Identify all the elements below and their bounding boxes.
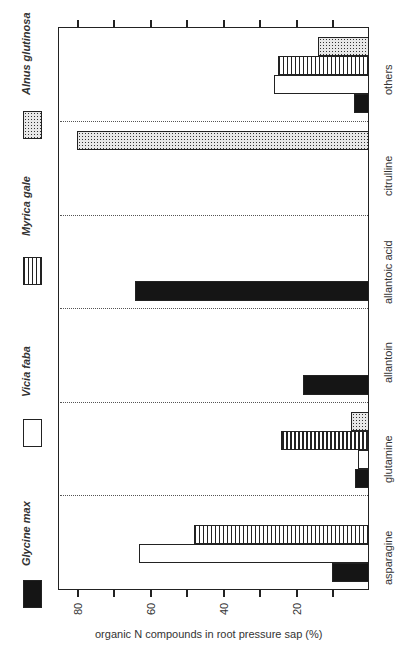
legend-label-alnus-glutinosa: Alnus glutinosa	[20, 13, 32, 96]
x-tick	[259, 590, 261, 597]
bar-citrulline-alnus-glutinosa	[77, 131, 369, 150]
group-separator	[60, 402, 368, 403]
top-tick	[259, 20, 261, 27]
x-tick	[150, 590, 152, 597]
x-tick-label-60: 60	[145, 603, 157, 615]
group-separator	[60, 215, 368, 216]
x-tick-label-20: 20	[291, 603, 303, 615]
bar-asparagine-myrica-gale	[194, 525, 369, 544]
bar-others-alnus-glutinosa	[318, 37, 369, 56]
category-label-others: others	[382, 64, 394, 95]
legend-label-vicia-faba: Vicia faba	[20, 346, 32, 397]
legend-label-glycine-max: Glycine max	[20, 501, 32, 566]
bar-others-glycine-max	[354, 94, 369, 113]
category-label-citrulline: citrulline	[382, 156, 394, 196]
top-tick	[332, 20, 334, 27]
group-separator	[60, 308, 368, 309]
x-tick-label-40: 40	[218, 603, 230, 615]
x-tick	[186, 590, 188, 597]
group-separator	[60, 121, 368, 122]
x-tick	[77, 590, 79, 597]
bar-glutamine-alnus-glutinosa	[351, 412, 369, 431]
x-tick	[113, 590, 115, 597]
top-tick	[150, 20, 152, 27]
legend-label-myrica-gale: Myrica gale	[20, 176, 32, 236]
x-tick	[296, 590, 298, 597]
bar-others-myrica-gale	[278, 56, 369, 75]
x-axis-title: organic N compounds in root pressure sap…	[95, 628, 322, 640]
x-tick-label-80: 80	[72, 603, 84, 615]
bar-glutamine-myrica-gale	[281, 431, 369, 450]
top-tick	[296, 20, 298, 27]
bar-glutamine-glycine-max	[355, 469, 369, 488]
top-tick	[77, 20, 79, 27]
legend-swatch-myrica-gale	[23, 257, 42, 285]
category-label-allantoic-acid: allantoic acid	[382, 240, 394, 304]
legend-swatch-vicia-faba	[23, 419, 42, 447]
bar-others-vicia-faba	[274, 75, 369, 94]
category-label-glutamine: glutamine	[382, 435, 394, 483]
x-tick	[223, 590, 225, 597]
top-tick	[186, 20, 188, 27]
legend-swatch-alnus-glutinosa	[23, 111, 42, 139]
legend-swatch-glycine-max	[23, 580, 42, 608]
category-label-asparagine: asparagine	[382, 531, 394, 585]
category-label-allantoin: allantoin	[382, 342, 394, 383]
bar-asparagine-glycine-max	[332, 563, 369, 582]
bar-asparagine-vicia-faba	[139, 544, 369, 563]
top-tick	[113, 20, 115, 27]
group-separator	[60, 495, 368, 496]
top-tick	[223, 20, 225, 27]
x-tick	[332, 590, 334, 597]
bar-allantoic-acid-glycine-max	[135, 281, 369, 301]
bar-glutamine-vicia-faba	[358, 450, 369, 469]
bar-allantoin-glycine-max	[303, 375, 369, 395]
